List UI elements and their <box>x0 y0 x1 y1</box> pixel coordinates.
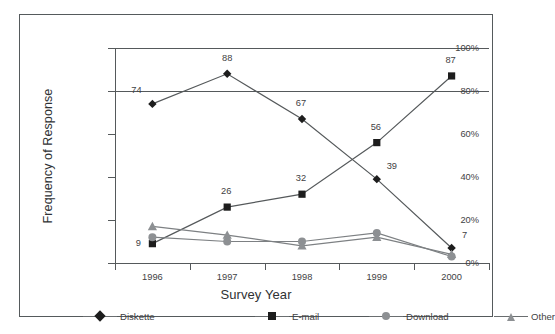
data-point-marker <box>148 222 157 230</box>
data-point-marker <box>223 70 231 78</box>
y-tick-100% <box>108 48 115 49</box>
chart-legend: DisketteE-mailDownloadOther <box>39 311 473 331</box>
legend-label: E-mail <box>292 311 319 322</box>
legend-item-other[interactable]: Other <box>494 311 555 322</box>
data-label-e-mail-1999: 56 <box>371 122 381 132</box>
y-axis-title: Frequency of Response <box>41 89 55 224</box>
y-tick-0% <box>108 263 115 264</box>
x-tick-label-1999: 1999 <box>366 272 387 282</box>
legend-marker-diamond-icon <box>94 310 105 321</box>
y-tick-80% <box>108 91 115 92</box>
y-tick-40% <box>108 177 115 178</box>
legend-item-diskette[interactable]: Diskette <box>83 311 155 322</box>
data-point-marker <box>148 100 156 108</box>
data-label-diskette-2000: 7 <box>462 230 467 240</box>
data-label-diskette-1999: 39 <box>387 161 397 171</box>
x-tick <box>265 263 266 270</box>
legend-item-e-mail[interactable]: E-mail <box>255 311 319 322</box>
data-label-diskette-1996: 74 <box>131 85 141 95</box>
x-tick-label-2000: 2000 <box>441 272 462 282</box>
legend-swatch-square-icon <box>255 311 289 322</box>
y-tick-60% <box>108 134 115 135</box>
legend-marker-square-icon <box>268 312 276 320</box>
x-tick <box>489 263 490 270</box>
x-axis-line <box>115 263 489 264</box>
x-tick <box>339 263 340 270</box>
legend-label: Download <box>406 311 449 322</box>
data-label-e-mail-1997: 26 <box>221 186 231 196</box>
x-tick-label-1997: 1997 <box>217 272 238 282</box>
data-point-marker <box>298 191 305 198</box>
data-label-diskette-1998: 67 <box>296 98 306 108</box>
data-label-e-mail-1998: 32 <box>296 173 306 183</box>
legend-swatch-diamond-icon <box>83 311 117 322</box>
x-axis-title: Survey Year <box>20 287 492 302</box>
legend-item-download[interactable]: Download <box>369 311 449 322</box>
legend-label: Diskette <box>120 311 155 322</box>
data-label-e-mail-2000: 87 <box>445 55 455 65</box>
legend-swatch-triangle-icon <box>494 311 528 322</box>
data-point-marker <box>448 72 455 79</box>
x-tick <box>414 263 415 270</box>
x-tick <box>115 263 116 270</box>
x-tick-label-1996: 1996 <box>142 272 163 282</box>
data-label-diskette-1997: 88 <box>222 53 232 63</box>
y-tick-20% <box>108 220 115 221</box>
legend-label: Other <box>531 311 555 322</box>
figure-border: Frequency of Response Survey Year 0%20%4… <box>19 14 493 317</box>
data-point-marker <box>224 204 231 211</box>
x-tick-label-1998: 1998 <box>292 272 313 282</box>
x-tick <box>190 263 191 270</box>
data-point-marker <box>148 233 156 241</box>
plot-area: 0%20%40%60%80%100%19961997199819992000 7… <box>115 48 489 263</box>
legend-marker-triangle-icon <box>507 313 515 321</box>
data-point-marker <box>373 139 380 146</box>
data-label-e-mail-1996: 9 <box>136 238 141 248</box>
legend-marker-circle-icon <box>382 312 390 320</box>
series-layer <box>115 48 489 263</box>
legend-swatch-circle-icon <box>369 311 403 322</box>
